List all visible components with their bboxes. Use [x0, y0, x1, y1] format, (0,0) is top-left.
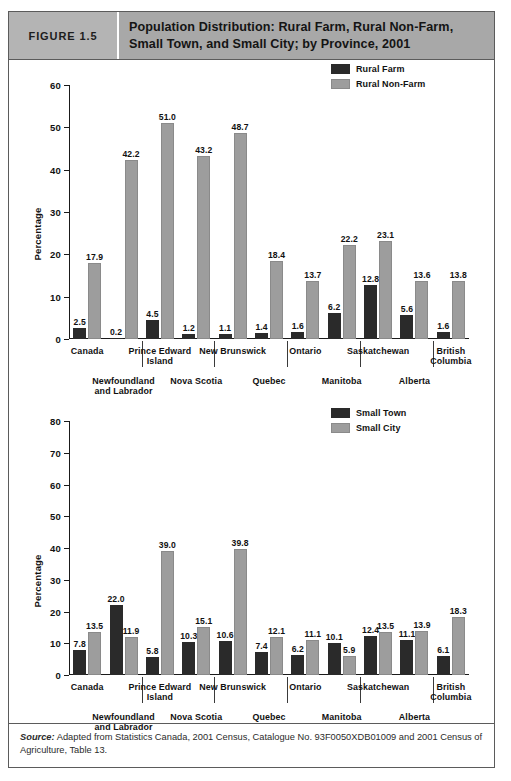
- plot-area: 010203040506070807.813.522.011.95.839.01…: [69, 421, 469, 675]
- bar: [379, 632, 392, 675]
- y-axis-label: Percentage: [32, 554, 43, 607]
- y-axis-label: Percentage: [32, 207, 43, 260]
- bar-value-label: 11.9: [123, 626, 140, 636]
- bar-value-label: 1.1: [219, 323, 231, 333]
- bar: [110, 605, 123, 675]
- bar: [73, 650, 86, 675]
- bar-value-label: 48.7: [232, 122, 249, 132]
- y-axis-tick: [64, 453, 69, 454]
- bar: [88, 263, 101, 339]
- bar: [182, 642, 195, 675]
- bar: [88, 632, 101, 675]
- chart-legend: Rural FarmRural Non-Farm: [331, 64, 425, 94]
- x-axis-category-label: Alberta: [376, 712, 452, 722]
- y-axis-tick: [64, 516, 69, 517]
- chart-rural-farm-nonfarm: Percentage01020304050602.517.90.242.24.5…: [9, 60, 494, 408]
- y-axis-tick-label: 20: [50, 606, 61, 617]
- bar-value-label: 10.1: [326, 632, 343, 642]
- bar-value-label: 22.2: [341, 234, 358, 244]
- y-axis-tick-label: 50: [50, 511, 61, 522]
- y-axis-tick-label: 70: [50, 447, 61, 458]
- y-axis-tick: [64, 421, 69, 422]
- x-axis-category-label: Newfoundland and Labrador: [85, 376, 161, 396]
- chart-small-town-small-city: Percentage010203040506070807.813.522.011…: [9, 408, 494, 753]
- bar-value-label: 10.3: [180, 631, 197, 641]
- bar-value-label: 1.4: [255, 322, 267, 332]
- y-axis-tick-label: 10: [50, 291, 61, 302]
- bar: [255, 333, 268, 339]
- y-axis-tick: [64, 212, 69, 213]
- bar: [415, 281, 428, 339]
- bar: [270, 261, 283, 339]
- bar-value-label: 12.1: [268, 626, 285, 636]
- bar: [306, 281, 319, 339]
- figure-card: FIGURE 1.5 Population Distribution: Rura…: [8, 11, 495, 768]
- y-axis-tick-label: 60: [50, 479, 61, 490]
- bar-value-label: 2.5: [74, 317, 86, 327]
- bar-value-label: 4.5: [146, 309, 158, 319]
- bar: [328, 313, 341, 339]
- y-axis-tick-label: 30: [50, 207, 61, 218]
- bar-value-label: 39.0: [159, 540, 176, 550]
- x-axis-category-label: Quebec: [231, 712, 307, 722]
- bar-value-label: 0.2: [110, 327, 122, 337]
- legend-swatch-icon: [331, 408, 350, 418]
- y-axis-tick-label: 0: [56, 670, 61, 681]
- bar-value-label: 43.2: [195, 145, 212, 155]
- bar: [161, 551, 174, 675]
- bar: [146, 320, 159, 339]
- x-axis-category-label: Nova Scotia: [158, 376, 234, 386]
- bar: [437, 656, 450, 675]
- figure-header: FIGURE 1.5 Population Distribution: Rura…: [9, 12, 494, 60]
- x-axis-category-label: Quebec: [231, 376, 307, 386]
- bar: [343, 656, 356, 675]
- y-axis-tick: [64, 643, 69, 644]
- x-axis-category-label: Saskatchewan: [340, 346, 416, 356]
- x-axis-category-label: Canada: [49, 682, 125, 692]
- bar: [270, 637, 283, 675]
- bar: [255, 652, 268, 675]
- bar: [234, 549, 247, 675]
- bar-value-label: 7.4: [255, 641, 267, 651]
- bar-value-label: 6.2: [292, 644, 304, 654]
- bar: [110, 338, 123, 339]
- bar-value-label: 7.8: [74, 639, 86, 649]
- source-text: Adapted from Statistics Canada, 2001 Cen…: [20, 732, 482, 755]
- y-axis-tick-label: 80: [50, 416, 61, 427]
- x-axis-category-label: Ontario: [267, 682, 343, 692]
- legend-item[interactable]: Small City: [331, 423, 406, 433]
- y-axis: [69, 85, 70, 339]
- bar-value-label: 18.4: [268, 250, 285, 260]
- bar-value-label: 6.2: [328, 302, 340, 312]
- figure-number: FIGURE 1.5: [9, 12, 119, 59]
- x-axis-category-label: Prince Edward Island: [122, 682, 198, 702]
- legend-label: Rural Farm: [356, 64, 405, 74]
- bar: [197, 156, 210, 339]
- bar-value-label: 13.9: [413, 620, 430, 630]
- legend-label: Small City: [356, 423, 401, 433]
- legend-swatch-icon: [331, 79, 350, 89]
- legend-item[interactable]: Rural Farm: [331, 64, 425, 74]
- bar: [197, 627, 210, 675]
- y-axis-tick: [64, 254, 69, 255]
- bar-value-label: 12.8: [362, 274, 379, 284]
- legend-item[interactable]: Rural Non-Farm: [331, 79, 425, 89]
- y-axis-tick-label: 30: [50, 574, 61, 585]
- bar: [328, 643, 341, 675]
- legend-item[interactable]: Small Town: [331, 408, 406, 418]
- bar: [291, 332, 304, 339]
- x-axis-category-label: Ontario: [267, 346, 343, 356]
- y-axis-tick: [64, 170, 69, 171]
- bar: [146, 657, 159, 675]
- y-axis-tick: [64, 675, 69, 676]
- bar-value-label: 15.1: [195, 616, 212, 626]
- source-note: Source: Adapted from Statistics Canada, …: [9, 723, 494, 767]
- bar-value-label: 51.0: [159, 112, 176, 122]
- x-axis-category-label: Saskatchewan: [340, 682, 416, 692]
- y-axis-tick: [64, 485, 69, 486]
- y-axis: [69, 421, 70, 675]
- y-axis-tick: [64, 580, 69, 581]
- legend-swatch-icon: [331, 423, 350, 433]
- bar-value-label: 23.1: [377, 230, 394, 240]
- y-axis-tick: [64, 548, 69, 549]
